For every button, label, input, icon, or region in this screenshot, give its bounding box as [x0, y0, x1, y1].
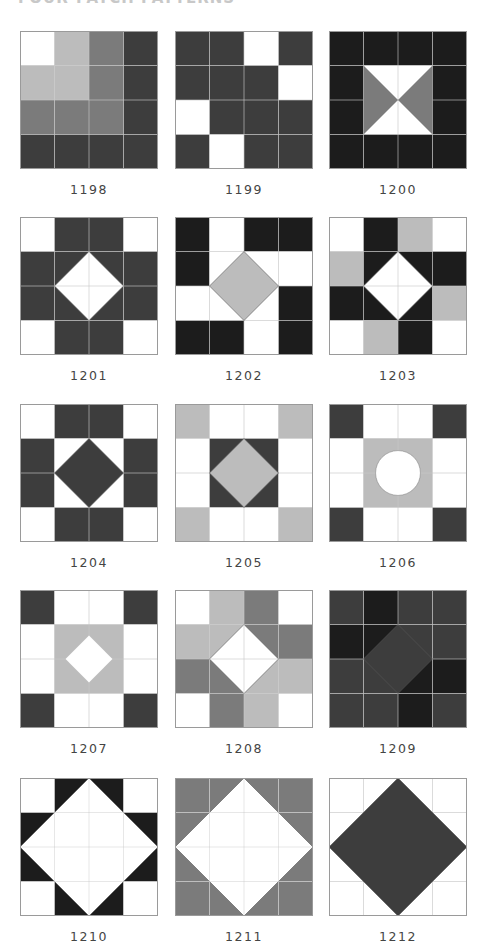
block-number-label: 1211 — [175, 929, 313, 944]
block-number-label: 1206 — [329, 555, 467, 570]
block-number-label: 1207 — [20, 741, 158, 756]
quilt-block-pattern — [20, 217, 158, 355]
quilt-block-pattern — [175, 590, 313, 728]
block-number-label: 1200 — [329, 182, 467, 197]
quilt-block-pattern — [329, 778, 467, 916]
quilt-block-1212: 1212 — [329, 778, 467, 916]
quilt-block-1203: 1203 — [329, 217, 467, 355]
quilt-block-pattern — [175, 31, 313, 169]
block-number-label: 1201 — [20, 368, 158, 383]
quilt-block-1210: 1210 — [20, 778, 158, 916]
block-number-label: 1210 — [20, 929, 158, 944]
quilt-block-1206: 1206 — [329, 404, 467, 542]
block-number-label: 1204 — [20, 555, 158, 570]
quilt-block-1209: 1209 — [329, 590, 467, 728]
block-number-label: 1199 — [175, 182, 313, 197]
quilt-block-pattern — [329, 404, 467, 542]
quilt-block-1198: 1198 — [20, 31, 158, 169]
quilt-block-pattern — [175, 217, 313, 355]
quilt-block-1208: 1208 — [175, 590, 313, 728]
block-number-label: 1205 — [175, 555, 313, 570]
quilt-block-1200: 1200 — [329, 31, 467, 169]
quilt-block-pattern — [175, 404, 313, 542]
quilt-block-pattern — [20, 590, 158, 728]
quilt-block-pattern — [329, 590, 467, 728]
quilt-block-1204: 1204 — [20, 404, 158, 542]
quilt-block-pattern — [329, 31, 467, 169]
quilt-block-pattern — [329, 217, 467, 355]
block-number-label: 1203 — [329, 368, 467, 383]
block-number-label: 1208 — [175, 741, 313, 756]
block-number-label: 1202 — [175, 368, 313, 383]
page-heading: FOUR-PATCH PATTERNS — [18, 0, 235, 7]
quilt-block-1205: 1205 — [175, 404, 313, 542]
quilt-block-pattern — [20, 404, 158, 542]
block-number-label: 1198 — [20, 182, 158, 197]
block-number-label: 1212 — [329, 929, 467, 944]
quilt-block-1207: 1207 — [20, 590, 158, 728]
quilt-block-1202: 1202 — [175, 217, 313, 355]
quilt-block-pattern — [20, 778, 158, 916]
quilt-block-1211: 1211 — [175, 778, 313, 916]
quilt-block-1201: 1201 — [20, 217, 158, 355]
quilt-block-1199: 1199 — [175, 31, 313, 169]
quilt-block-pattern — [175, 778, 313, 916]
block-number-label: 1209 — [329, 741, 467, 756]
quilt-block-pattern — [20, 31, 158, 169]
